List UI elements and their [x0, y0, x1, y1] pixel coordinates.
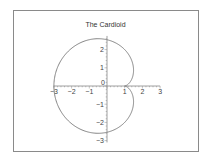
x-tick-label: 1: [123, 88, 127, 95]
y-tick-label: −3: [96, 137, 104, 144]
y-tick-label: 1: [100, 64, 104, 71]
x-tick-label: −2: [68, 88, 76, 95]
plot-area: −3−2−10123−3−2−112: [0, 0, 211, 163]
y-tick-label: −2: [96, 119, 104, 126]
y-tick-label: 2: [100, 46, 104, 53]
x-tick-label: −1: [85, 88, 93, 95]
y-tick-label: −1: [96, 101, 104, 108]
x-tick-label: 2: [140, 88, 144, 95]
x-tick-label: 0: [101, 79, 105, 86]
x-tick-label: 3: [158, 88, 162, 95]
